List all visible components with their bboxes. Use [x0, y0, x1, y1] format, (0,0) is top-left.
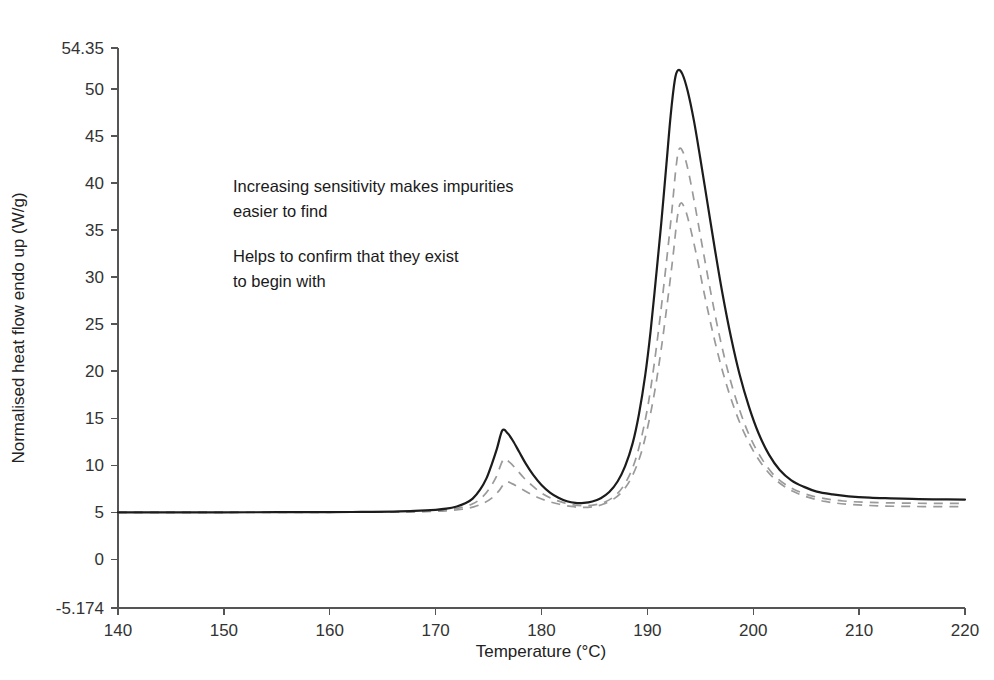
y-tick-label: 0: [95, 550, 104, 569]
x-tick-label: 140: [104, 621, 132, 640]
y-tick-label: 50: [85, 80, 104, 99]
y-tick-label: 20: [85, 362, 104, 381]
y-tick-label: 15: [85, 409, 104, 428]
x-tick-label: 150: [210, 621, 238, 640]
y-tick-label: 45: [85, 127, 104, 146]
x-tick-label: 180: [527, 621, 555, 640]
x-tick-label: 210: [845, 621, 873, 640]
x-tick-label: 170: [421, 621, 449, 640]
y-tick-label: 5: [95, 503, 104, 522]
y-tick-label: -5.174: [56, 599, 104, 618]
chart-background: [0, 0, 994, 680]
chart-canvas: -5.1740510152025303540455054.35 14015016…: [0, 0, 994, 680]
x-tick-label: 200: [739, 621, 767, 640]
annotation-line-3: Helps to confirm that they exist: [233, 247, 459, 265]
annotation-line-1: Increasing sensitivity makes impurities: [233, 177, 514, 195]
y-tick-label: 30: [85, 268, 104, 287]
x-axis-title: Temperature (°C): [476, 642, 607, 661]
x-tick-label: 190: [633, 621, 661, 640]
annotation-line-2: easier to find: [233, 202, 327, 220]
dsc-thermogram-chart: -5.1740510152025303540455054.35 14015016…: [0, 0, 994, 680]
y-tick-label: 35: [85, 221, 104, 240]
x-tick-label: 220: [951, 621, 979, 640]
y-tick-label: 10: [85, 456, 104, 475]
y-axis-title: Normalised heat flow endo up (W/g): [9, 192, 28, 463]
x-axis-tick-labels: 140150160170180190200210220: [104, 621, 979, 640]
x-tick-label: 160: [316, 621, 344, 640]
annotation-line-4: to begin with: [233, 272, 326, 290]
y-tick-label: 54.35: [61, 39, 104, 58]
y-tick-label: 40: [85, 174, 104, 193]
y-tick-label: 25: [85, 315, 104, 334]
